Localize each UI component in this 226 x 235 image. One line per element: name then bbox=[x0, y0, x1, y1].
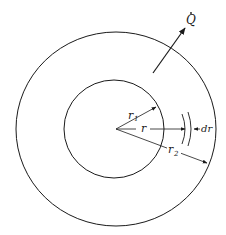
svg-text:1: 1 bbox=[134, 115, 138, 123]
shell-outer-arc bbox=[188, 112, 191, 146]
heat-flow-arrow bbox=[153, 28, 185, 73]
svg-text:2: 2 bbox=[173, 150, 179, 158]
radius-label: r bbox=[141, 122, 147, 135]
inner-circle bbox=[64, 80, 164, 178]
inner-radius-label: r 1 bbox=[128, 109, 138, 123]
cylinder-cross-section-diagram: Q r 1 r dr r 2 bbox=[0, 0, 226, 235]
heat-flow-label: Q bbox=[186, 12, 196, 27]
dot-accent-icon bbox=[190, 12, 192, 14]
shell-thickness-label: dr bbox=[201, 123, 213, 134]
svg-text:Q: Q bbox=[186, 13, 196, 27]
outer-radius-arrow bbox=[116, 129, 207, 163]
outer-radius-label: r 2 bbox=[167, 143, 181, 158]
